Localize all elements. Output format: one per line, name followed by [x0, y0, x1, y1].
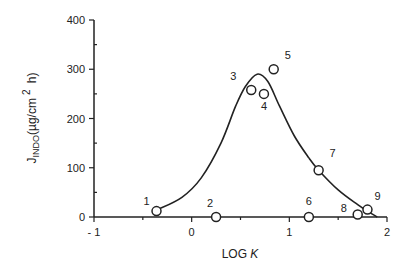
y-axis-label: JINDO(µg/cm2 h) — [21, 73, 41, 164]
chart: 0100200300400- 1012 123456789 LOG K JIND… — [0, 0, 403, 277]
data-point-marker — [152, 207, 161, 216]
y-tick-label: 300 — [67, 63, 85, 75]
data-point-marker — [259, 89, 268, 98]
data-point-label: 1 — [143, 195, 149, 207]
data-point-label: 5 — [285, 49, 291, 61]
data-point-label: 2 — [207, 197, 213, 209]
data-point-marker — [363, 205, 372, 214]
data-point-marker — [314, 166, 323, 175]
data-point-label: 3 — [230, 70, 236, 82]
data-point-label: 8 — [341, 202, 347, 214]
x-axis-label: LOG K — [222, 247, 260, 261]
data-point-marker — [353, 210, 362, 219]
data-point-label: 7 — [330, 147, 336, 159]
x-tick-label: 2 — [384, 226, 390, 238]
x-tick-label: 1 — [286, 226, 292, 238]
data-point-marker — [212, 213, 221, 222]
data-point-marker — [304, 213, 313, 222]
data-point-marker — [247, 85, 256, 94]
data-point-label: 9 — [374, 190, 380, 202]
x-tick-label: 0 — [189, 226, 195, 238]
data-point-marker — [269, 65, 278, 74]
y-tick-label: 400 — [67, 14, 85, 26]
x-tick-label: - 1 — [88, 226, 101, 238]
data-point-label: 6 — [306, 195, 312, 207]
y-tick-label: 0 — [79, 211, 85, 223]
data-point-label: 4 — [261, 100, 267, 112]
y-tick-label: 100 — [67, 162, 85, 174]
y-tick-label: 200 — [67, 113, 85, 125]
